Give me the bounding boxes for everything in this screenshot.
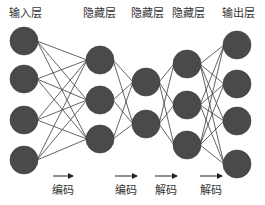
neuron-node-layer0-3	[10, 146, 38, 174]
layer-label: 隐藏层	[172, 4, 205, 20]
neuron-node-layer1-2	[86, 125, 114, 153]
neuron-node-layer0-0	[10, 27, 38, 55]
stage-label: 解码	[155, 181, 177, 197]
neuron-node-layer0-2	[10, 106, 38, 134]
stage-label: 解码	[200, 181, 222, 197]
neuron-node-layer4-0	[223, 31, 251, 59]
neuron-node-layer4-3	[223, 150, 251, 178]
connection-edge	[37, 139, 87, 160]
connection-edge	[113, 60, 133, 82]
layer-label: 输出层	[222, 4, 255, 20]
neuron-node-layer3-1	[173, 91, 201, 119]
neuron-node-layer4-1	[223, 70, 251, 98]
connection-edge	[37, 60, 87, 120]
neuron-node-layer1-0	[86, 46, 114, 74]
connection-edge	[113, 100, 133, 124]
layer-label: 输入层	[9, 4, 42, 20]
connection-edge	[200, 121, 224, 145]
stage-label: 编码	[115, 181, 137, 197]
layer-label: 隐藏层	[83, 4, 116, 20]
neuron-node-layer3-2	[173, 131, 201, 159]
neuron-node-layer2-1	[132, 110, 160, 138]
neuron-node-layer4-2	[223, 107, 251, 135]
neuron-node-layer1-1	[86, 86, 114, 114]
stage-label: 编码	[52, 181, 74, 197]
connection-edge	[37, 41, 87, 100]
neuron-node-layer3-0	[173, 50, 201, 78]
neuron-nodes	[10, 27, 251, 178]
autoencoder-diagram	[0, 0, 265, 205]
connection-edge	[37, 60, 87, 160]
connection-edge	[37, 41, 87, 60]
neuron-node-layer2-0	[132, 68, 160, 96]
neuron-node-layer0-1	[10, 65, 38, 93]
connection-edge	[113, 60, 133, 124]
layer-label: 隐藏层	[131, 4, 164, 20]
